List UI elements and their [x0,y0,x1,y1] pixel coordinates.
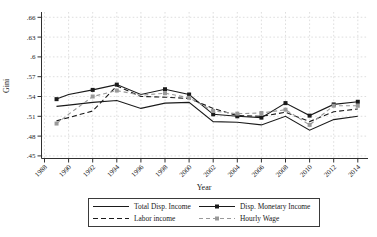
plot-line-hourly-wage [57,91,358,125]
marker-disp-monetary-income [356,100,360,104]
x-tick-label: 1994 [106,163,122,179]
marker-disp-monetary-income [115,83,119,87]
legend-swatch-hourly-wage [199,214,235,223]
legend-swatch-disp-monetary-income [199,202,235,211]
marker-disp-monetary-income [308,114,312,118]
marker-hourly-wage [284,108,288,112]
x-tick-label: 2000 [178,163,194,179]
legend-label-disp-monetary-income: Disp. Monetary Income [240,202,310,211]
y-tick-label: .63 [27,34,36,42]
x-tick-label: 2010 [298,163,314,179]
y-tick-label: .51 [27,113,36,121]
legend-marker [215,204,219,208]
x-tick-label: 1998 [154,163,170,179]
marker-hourly-wage [308,123,312,127]
marker-hourly-wage [356,104,360,108]
marker-hourly-wage [259,111,263,115]
marker-hourly-wage [55,122,59,126]
x-tick-label: 1990 [57,163,73,179]
x-tick-label: 1988 [33,163,49,179]
plot-line-total-disp-income [57,101,358,131]
marker-hourly-wage [115,89,119,93]
marker-disp-monetary-income [284,101,288,105]
legend-item-hourly-wage: Hourly Wage [199,213,315,225]
y-tick-label: .66 [27,14,36,22]
x-tick-label: 2008 [274,163,290,179]
x-tick-label: 2012 [323,163,339,179]
y-tick-label: .45 [27,152,36,160]
marker-hourly-wage [163,91,167,95]
legend-label-total-disp-income: Total Disp. Income [134,202,191,211]
y-tick-label: .48 [27,133,36,141]
marker-disp-monetary-income [163,87,167,91]
legend-swatch-total-disp-income [93,202,129,211]
legend-marker [215,217,219,221]
x-tick-label: 1992 [82,163,98,179]
gini-chart: .66.63.6.57.54.51.48.4519881990199219941… [0,0,377,197]
y-axis-title: Gini [2,78,11,93]
x-tick-label: 1996 [130,163,146,179]
legend-swatch-labor-income [93,214,129,223]
x-tick-label: 2014 [347,163,363,179]
legend-label-hourly-wage: Hourly Wage [240,214,279,223]
legend-label-labor-income: Labor income [134,214,175,223]
x-tick-label: 2004 [226,163,242,179]
legend-item-total-disp-income: Total Disp. Income [93,200,199,212]
marker-hourly-wage [91,95,95,99]
marker-hourly-wage [332,104,336,108]
y-tick-label: .6 [30,53,36,61]
x-tick-label: 2006 [250,163,266,179]
gini-figure: .66.63.6.57.54.51.48.4519881990199219941… [0,0,377,237]
legend: Total Disp. IncomeDisp. Monetary IncomeL… [88,198,320,227]
x-tick-label: 2002 [202,163,218,179]
y-tick-label: .54 [27,93,36,101]
marker-hourly-wage [211,109,215,113]
marker-disp-monetary-income [259,116,263,120]
legend-item-disp-monetary-income: Disp. Monetary Income [199,200,315,212]
marker-hourly-wage [235,112,239,116]
marker-disp-monetary-income [91,88,95,92]
marker-hourly-wage [187,96,191,100]
y-tick-label: .57 [27,73,36,81]
plot-area: .66.63.6.57.54.51.48.4519881990199219941… [27,12,368,179]
legend-item-labor-income: Labor income [93,213,199,225]
x-axis-title: Year [197,183,212,192]
marker-disp-monetary-income [55,97,59,101]
